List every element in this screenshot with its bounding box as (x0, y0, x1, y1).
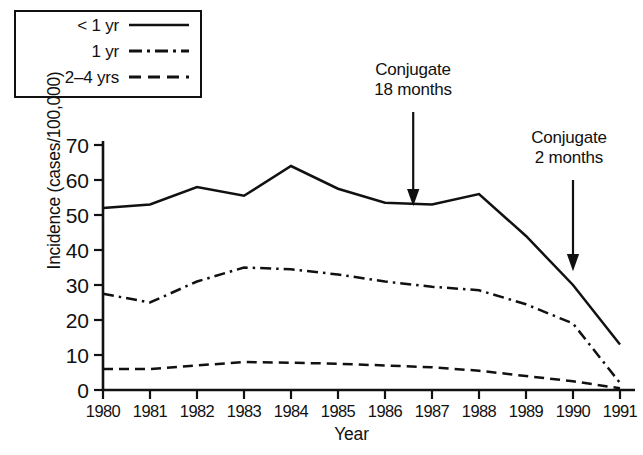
x-tick-label: 1989 (509, 402, 544, 420)
x-tick-label: 1982 (180, 402, 215, 420)
x-tick-label: 1983 (227, 402, 262, 420)
annotation-conjugate-18-months-line1: Conjugate (338, 60, 488, 80)
annotation-arrow-head (568, 255, 577, 268)
y-tick-label: 60 (66, 169, 89, 192)
annotation-arrow-head (409, 190, 418, 203)
annotation-conjugate-18-months-line2: 18 months (338, 80, 488, 100)
plot-area: 010203040506070 198019811982198319841985… (0, 0, 643, 455)
y-tick-label: 20 (66, 309, 89, 332)
y-axis: 010203040506070 (66, 134, 103, 402)
x-tick-label: 1985 (321, 402, 356, 420)
x-tick-label: 1990 (556, 402, 591, 420)
x-tick-label: 1980 (86, 402, 121, 420)
y-tick-label: 40 (66, 239, 89, 262)
incidence-line-chart-figure: < 1 yr 1 yr 2–4 yrs 010203040506070 1980… (0, 0, 643, 455)
x-tick-label: 1987 (415, 402, 450, 420)
x-tick-label: 1988 (462, 402, 497, 420)
x-axis: 1980198119821983198419851986198719881989… (86, 390, 638, 420)
annotation-conjugate-2-months-line1: Conjugate (494, 128, 643, 148)
annotation-conjugate-2-months: Conjugate 2 months (494, 128, 643, 168)
x-tick-label: 1986 (368, 402, 403, 420)
data-series-group (103, 166, 620, 388)
series-line-under-1-yr (103, 166, 620, 345)
x-tick-label: 1981 (133, 402, 168, 420)
annotation-conjugate-2-months-line2: 2 months (494, 148, 643, 168)
x-axis-title: Year (274, 424, 369, 445)
x-tick-label: 1991 (603, 402, 638, 420)
y-tick-label: 0 (77, 379, 89, 402)
y-tick-label: 30 (66, 274, 89, 297)
y-tick-label: 70 (66, 134, 89, 157)
y-tick-label: 10 (66, 344, 89, 367)
y-tick-label: 50 (66, 204, 89, 227)
x-axis-title-wrap: Year (0, 424, 643, 445)
y-axis-title: Incidence (cases/100,000) (44, 41, 65, 301)
x-tick-label: 1984 (274, 402, 309, 420)
annotation-conjugate-18-months: Conjugate 18 months (338, 60, 488, 100)
series-line-2-4-yrs (103, 362, 620, 388)
